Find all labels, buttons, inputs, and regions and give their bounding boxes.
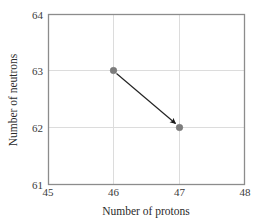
y-tick-label-64: 64 bbox=[32, 9, 44, 21]
x-tick-label-45: 45 bbox=[43, 186, 55, 198]
x-tick-label-48: 48 bbox=[240, 186, 252, 198]
scatter-plot: 45 46 47 48 61 62 63 64 Number of proton… bbox=[0, 0, 266, 223]
y-tick-label-62: 62 bbox=[32, 122, 43, 134]
x-axis-tick-labels: 45 46 47 48 bbox=[43, 186, 252, 198]
chart-container: 45 46 47 48 61 62 63 64 Number of proton… bbox=[0, 0, 266, 223]
y-tick-label-61: 61 bbox=[32, 179, 43, 191]
x-tick-label-46: 46 bbox=[108, 186, 120, 198]
x-tick-label-47: 47 bbox=[174, 186, 186, 198]
data-point-47-62 bbox=[176, 124, 183, 131]
y-axis-title: Number of neutrons bbox=[7, 53, 19, 146]
y-tick-label-63: 63 bbox=[32, 65, 44, 77]
data-point-46-63 bbox=[110, 67, 117, 74]
y-axis-tick-labels: 61 62 63 64 bbox=[32, 9, 44, 192]
x-axis-title: Number of protons bbox=[102, 205, 190, 218]
